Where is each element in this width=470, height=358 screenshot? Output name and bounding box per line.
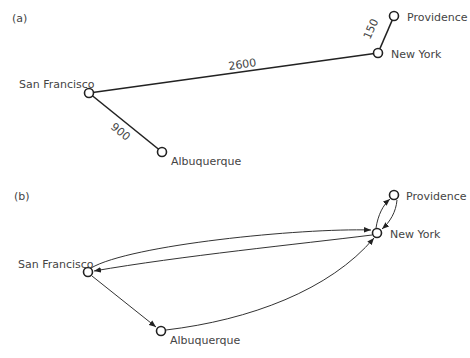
label-providence: Providence	[407, 11, 468, 24]
arc-sf-to-ny	[91, 230, 371, 268]
arc-sf-to-albuquerque	[92, 276, 156, 327]
weight-ny-providence: 150	[361, 17, 381, 41]
label-new-york: New York	[391, 48, 442, 61]
label-san-francisco: San Francisco	[19, 78, 95, 91]
label-albuquerque: Albuquerque	[170, 334, 241, 347]
node-new-york	[374, 49, 383, 58]
arc-providence-to-ny	[382, 200, 397, 229]
label-albuquerque: Albuquerque	[171, 155, 242, 168]
edge-sf-albuquerque	[89, 93, 162, 152]
label-san-francisco: San Francisco	[18, 258, 94, 271]
node-new-york	[373, 229, 382, 238]
label-new-york: New York	[390, 228, 441, 241]
label-providence: Providence	[406, 190, 467, 203]
panel-a: (a) 2600 150 900 San Francisco New York …	[12, 11, 468, 168]
arc-albuquerque-to-ny	[166, 238, 374, 330]
node-albuquerque	[157, 327, 166, 336]
weight-sf-albuquerque: 900	[108, 120, 133, 143]
panel-b-label: (b)	[14, 190, 30, 203]
node-albuquerque	[158, 148, 167, 157]
graph-figure: (a) 2600 150 900 San Francisco New York …	[0, 0, 470, 358]
node-providence	[390, 12, 399, 21]
node-providence	[390, 191, 399, 200]
panel-a-label: (a)	[12, 12, 27, 25]
panel-b: (b) San Francisco New York Providence Al…	[14, 190, 467, 347]
